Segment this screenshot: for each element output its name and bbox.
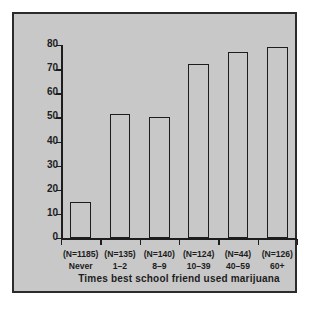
y-tick-label: 30 [47,159,58,170]
group-size-label: (N=126) [249,248,306,260]
y-tick-label: 20 [47,183,58,194]
x-tick-mark [297,239,298,245]
y-tick-label: 40 [47,135,58,146]
x-tick-mark [179,239,180,245]
y-tick-label: 50 [47,110,58,121]
y-tick-label: 10 [47,207,58,218]
x-tick-mark [218,239,219,245]
y-tick-label: 80 [47,38,58,49]
plot-area: 01020304050607080 (N=1185)Never(N=135)1–… [61,45,297,238]
bar [149,117,169,238]
x-tick-mark [258,239,259,245]
bar [267,47,287,238]
y-axis-line [61,45,63,238]
bar [110,114,130,238]
category-name-label: 60+ [249,260,306,272]
y-tick-label: 60 [47,86,58,97]
x-tick-mark [140,239,141,245]
x-axis-title: Times best school friend used marijuana [61,273,297,284]
bar [70,202,90,238]
bar [188,64,208,238]
y-tick-label: 0 [52,231,58,242]
bar [228,52,248,238]
x-tick-mark [100,239,101,245]
plot-background [61,45,297,238]
x-category-label: (N=126)60+ [249,248,306,272]
chart-figure: Adolescents having used marijuana (%) 01… [12,12,297,293]
y-tick-label: 70 [47,62,58,73]
x-tick-mark [61,239,62,245]
